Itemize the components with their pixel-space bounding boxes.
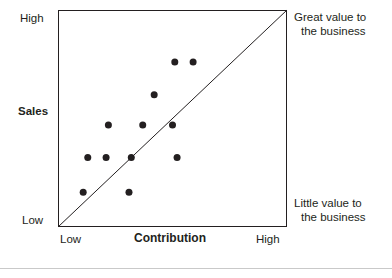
y-axis-low-label: Low	[22, 214, 43, 228]
scatter-point	[80, 189, 87, 196]
annotation-great-value-line2: the business	[294, 24, 390, 38]
scatter-point	[128, 154, 135, 161]
annotation-little-value: Little value to the business	[294, 196, 390, 224]
annotation-little-value-line1: Little value to	[294, 197, 362, 209]
annotation-great-value: Great value to the business	[294, 10, 390, 38]
scatter-point	[151, 91, 158, 98]
scatter-point	[103, 154, 110, 161]
scatter-point	[190, 59, 197, 66]
x-axis-high-label: High	[256, 233, 280, 247]
scatter-point	[84, 154, 91, 161]
annotation-little-value-line2: the business	[294, 210, 390, 224]
scatter-chart-figure: High Sales Low Low Contribution High Gre…	[0, 0, 392, 278]
plot-canvas	[58, 10, 287, 227]
annotation-great-value-line1: Great value to	[294, 11, 366, 23]
scatter-point	[125, 189, 132, 196]
x-axis-title: Contribution	[134, 232, 206, 246]
y-axis-high-label: High	[20, 12, 44, 26]
scatter-points-layer	[80, 59, 197, 196]
x-axis-low-label: Low	[60, 233, 81, 247]
diagonal-reference-line	[58, 10, 287, 227]
footer-divider	[0, 268, 392, 269]
scatter-point	[139, 122, 146, 129]
scatter-point	[171, 59, 178, 66]
scatter-point	[169, 122, 176, 129]
scatter-point	[174, 154, 181, 161]
y-axis-title: Sales	[18, 105, 48, 119]
scatter-point	[105, 122, 112, 129]
